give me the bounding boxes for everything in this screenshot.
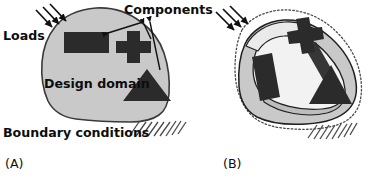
boundary-conditions-label: Boundary conditions: [3, 125, 149, 140]
figure-canvas: Loads Components Design domain Bound: [0, 0, 378, 178]
figure-root: Loads Components Design domain Bound: [0, 0, 378, 178]
component-rectangle: [64, 32, 109, 53]
components-label: Components: [124, 2, 213, 17]
panel-b-label: (B): [223, 156, 241, 171]
loads-label: Loads: [3, 28, 45, 43]
design-domain-label: Design domain: [44, 76, 150, 91]
panel-a-label: (A): [5, 156, 23, 171]
